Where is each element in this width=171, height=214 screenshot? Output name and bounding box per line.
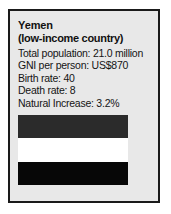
stat-death-rate: Death rate: 8	[18, 84, 151, 96]
country-income-classification: (low-income country)	[18, 32, 151, 45]
flag-band-top	[18, 115, 128, 138]
country-name-title: Yemen	[18, 19, 151, 32]
stat-natural-increase: Natural Increase: 3.2%	[18, 97, 151, 109]
stat-gni-per-person: GNI per person: US$870	[18, 59, 151, 71]
stat-total-population: Total population: 21.0 million	[18, 47, 151, 59]
flag-band-bottom	[18, 162, 128, 185]
stat-birth-rate: Birth rate: 40	[18, 72, 151, 84]
flag-band-middle	[18, 138, 128, 161]
country-statistics-list: Total population: 21.0 million GNI per p…	[18, 47, 151, 109]
country-info-card: Yemen (low-income country) Total populat…	[8, 9, 160, 203]
yemen-flag-icon	[18, 115, 128, 185]
